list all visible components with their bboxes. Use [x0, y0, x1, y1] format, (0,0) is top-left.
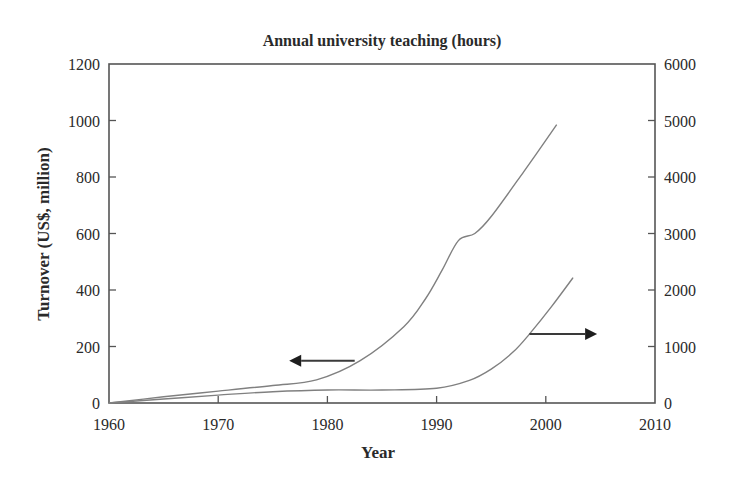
y-tick-label: 600 [76, 226, 100, 243]
x-tick-label: 1990 [421, 416, 453, 433]
y2-tick-label: 1000 [664, 339, 696, 356]
y2-tick-label: 6000 [664, 56, 696, 73]
y-tick-label: 200 [76, 339, 100, 356]
y-tick-label: 400 [76, 282, 100, 299]
y2-tick-label: 2000 [664, 282, 696, 299]
y-tick-label: 800 [76, 169, 100, 186]
y2-tick-label: 4000 [664, 169, 696, 186]
arrow-head [289, 355, 301, 367]
y-tick-label: 1200 [68, 56, 100, 73]
arrow-head [585, 328, 597, 340]
plot-frame [109, 64, 655, 403]
x-tick-label: 1970 [202, 416, 234, 433]
x-tick-label: 1980 [311, 416, 343, 433]
arrow-left [289, 355, 355, 367]
y-tick-label: 0 [92, 395, 100, 412]
chart-title: Annual university teaching (hours) [263, 32, 502, 50]
x-tick-label: 2000 [530, 416, 562, 433]
series-line-teaching-hours [109, 278, 573, 403]
x-axis-label: Year [361, 443, 395, 462]
y2-tick-label: 5000 [664, 113, 696, 130]
chart: Annual university teaching (hours) 19601… [0, 0, 736, 487]
y-tick-label: 1000 [68, 113, 100, 130]
y2-tick-label: 0 [664, 395, 672, 412]
annotation-layer [289, 328, 597, 367]
y2-tick-label: 3000 [664, 226, 696, 243]
x-tick-label: 1960 [93, 416, 125, 433]
x-tick-label: 2010 [639, 416, 671, 433]
arrow-right [529, 328, 597, 340]
y-axis-label: Turnover (US$, million) [34, 147, 53, 320]
plot-area-border [109, 64, 655, 403]
x-axis: 196019701980199020002010 [93, 396, 671, 433]
